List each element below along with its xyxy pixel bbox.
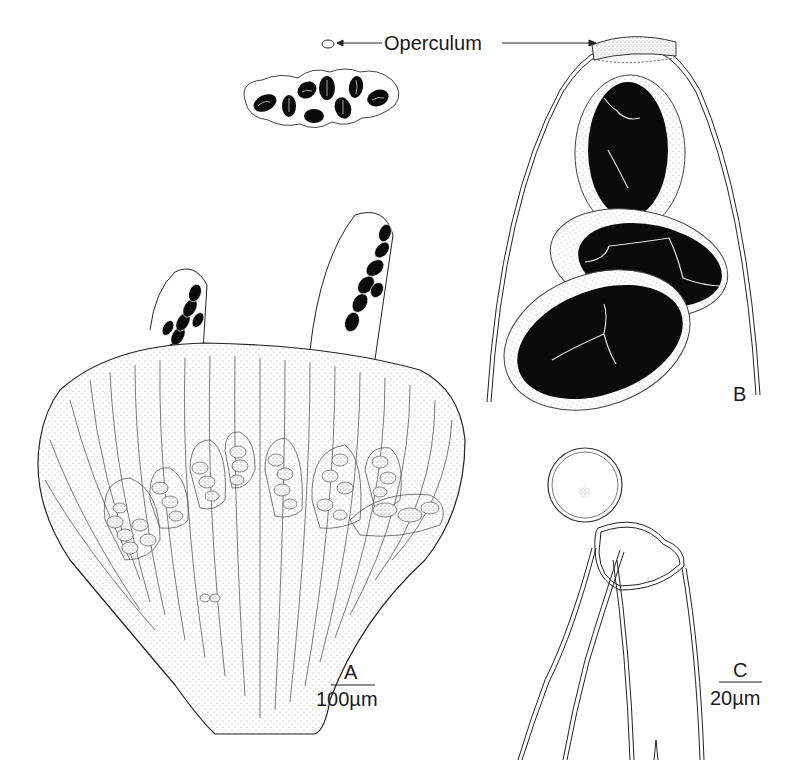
panel-a-label: A [344, 662, 357, 682]
detached-operculum-icon [322, 40, 334, 48]
panel-c-label: C [733, 660, 747, 680]
panel-b-ascus-tip [484, 37, 760, 435]
illustration-canvas [0, 0, 792, 776]
operculum-cap [592, 37, 676, 60]
panel-c-ascus-apex [518, 448, 704, 760]
scale-a-text: 100µm [316, 689, 378, 709]
panel-a-apothecium [38, 213, 465, 735]
ascospore-cluster [244, 69, 399, 128]
scale-c-text: 20µm [710, 688, 760, 708]
panel-b-label: B [733, 384, 746, 404]
operculum-label: Operculum [384, 33, 482, 53]
